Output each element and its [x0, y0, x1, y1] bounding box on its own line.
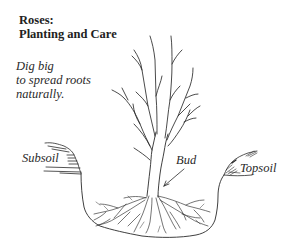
- rose-planting-illustration: [0, 0, 291, 251]
- canes: [112, 36, 200, 160]
- roots: [94, 196, 210, 233]
- label-subsoil: Subsoil: [22, 151, 59, 166]
- trunk: [147, 132, 168, 197]
- label-bud: Bud: [176, 153, 196, 168]
- bud-arrow: [164, 169, 184, 186]
- label-topsoil: Topsoil: [240, 161, 276, 176]
